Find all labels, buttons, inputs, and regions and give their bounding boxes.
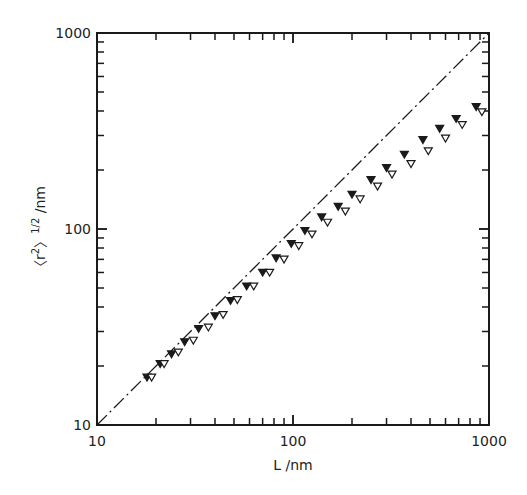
open-triangle-marker <box>388 171 396 178</box>
x-tick-label-10: 10 <box>88 433 106 449</box>
open-triangle-marker <box>204 324 212 331</box>
open-triangle-marker <box>295 243 303 250</box>
y-axis-title-unit: /nm <box>32 186 48 218</box>
x-tick-label-1000: 1000 <box>471 433 507 449</box>
x-axis-title: L /nm <box>273 457 312 473</box>
filled-triangle-marker <box>287 241 295 248</box>
open-triangle-marker <box>233 297 241 304</box>
x-tick-label-100: 100 <box>280 433 307 449</box>
y-tick-label-100: 100 <box>64 221 91 237</box>
open-triangle-marker <box>424 148 432 155</box>
filled-triangle-marker <box>383 165 391 172</box>
filled-triangle-marker <box>348 191 356 198</box>
y-axis-title-mid: 〉 <box>32 234 48 248</box>
open-triangle-marker <box>324 219 332 226</box>
open-triangle-marker <box>478 109 486 116</box>
y-axis-title-main: 〈r <box>32 254 48 274</box>
y-axis-tick-labels: 10 100 1000 <box>55 25 91 433</box>
open-triangle-marker <box>442 135 450 142</box>
open-triangle-marker <box>280 256 288 263</box>
svg-text:〈r2〉1/2 /nm: 〈r2〉1/2 /nm <box>30 186 48 274</box>
filled-triangle-marker <box>181 339 189 346</box>
open-triangle-marker <box>250 283 258 290</box>
y-tick-label-10: 10 <box>73 417 91 433</box>
filled-triangle-marker <box>259 269 267 276</box>
filled-triangle-marker <box>436 125 444 132</box>
filled-triangle-marker <box>419 137 427 144</box>
filled-triangle-marker <box>272 255 280 262</box>
y-axis-title: 〈r2〉1/2 /nm <box>30 186 48 274</box>
chart-canvas: 10 100 1000 10 100 1000 L /nm 〈r2〉1/2 /n… <box>0 0 527 495</box>
filled-triangle-marker <box>400 151 408 158</box>
open-triangle-marker <box>174 349 182 356</box>
open-triangle-marker <box>219 312 227 319</box>
filled-triangle-marker <box>227 298 235 305</box>
open-triangle-marker <box>356 196 364 203</box>
open-triangle-marker <box>407 161 415 168</box>
filled-triangle-marker <box>168 351 176 358</box>
filled-triangle-marker <box>243 283 251 290</box>
open-triangle-marker <box>308 231 316 238</box>
reference-line-r-equals-L <box>97 33 489 425</box>
y-tick-label-1000: 1000 <box>55 25 91 41</box>
filled-triangle-marker <box>367 177 375 184</box>
open-triangle-marker <box>458 122 466 129</box>
x-axis-tick-labels: 10 100 1000 <box>88 433 507 449</box>
filled-triangle-marker <box>211 313 219 320</box>
filled-triangle-marker <box>195 325 203 332</box>
data-points <box>143 104 486 381</box>
open-triangle-marker <box>374 183 382 190</box>
open-triangle-marker <box>341 208 349 215</box>
y-axis-title-sup2: 1/2 <box>30 218 41 234</box>
open-triangle-marker <box>189 337 197 344</box>
filled-triangle-marker <box>334 203 342 210</box>
open-triangle-marker <box>266 269 274 276</box>
